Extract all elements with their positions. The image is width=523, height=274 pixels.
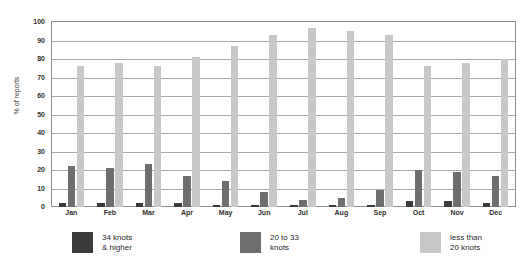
bar xyxy=(329,205,337,207)
y-axis-tick-label: 10 xyxy=(19,185,45,192)
x-axis-tick-label: Jun xyxy=(244,209,284,216)
bar xyxy=(59,203,67,207)
bar xyxy=(415,170,423,207)
bar xyxy=(68,166,76,207)
bar xyxy=(406,201,414,207)
bar xyxy=(453,172,461,207)
bars-layer xyxy=(52,22,515,207)
x-axis-tick-label: Jan xyxy=(51,209,91,216)
bar xyxy=(106,168,114,207)
bar-group xyxy=(213,22,239,207)
bar xyxy=(97,203,105,207)
legend-swatch xyxy=(72,232,93,253)
bar-group xyxy=(483,22,509,207)
x-axis-tick-label: Mar xyxy=(128,209,168,216)
y-axis-tick-label: 90 xyxy=(19,37,45,44)
legend-item: 34 knots & higher xyxy=(72,232,132,253)
x-axis-tick-label: Aug xyxy=(321,209,361,216)
bar xyxy=(376,190,384,207)
bar-group xyxy=(329,22,355,207)
bar xyxy=(269,35,277,207)
bar-group xyxy=(290,22,316,207)
bar xyxy=(145,164,153,207)
bar-group xyxy=(444,22,470,207)
bar xyxy=(183,176,191,207)
x-axis-tick-label: Apr xyxy=(167,209,207,216)
legend-label: 34 knots & higher xyxy=(102,232,132,253)
bar xyxy=(154,66,162,207)
bar-group xyxy=(367,22,393,207)
y-axis-tick-label: 80 xyxy=(19,55,45,62)
bar xyxy=(424,66,432,207)
bar xyxy=(338,198,346,207)
bar xyxy=(492,176,500,207)
x-axis-tick-label: Dec xyxy=(476,209,516,216)
y-axis-tick-label: 100 xyxy=(19,18,45,25)
chart-legend: 34 knots & higher20 to 33 knotsless than… xyxy=(0,232,523,274)
bar xyxy=(308,28,316,207)
bar-group xyxy=(59,22,85,207)
bar-group xyxy=(406,22,432,207)
bar xyxy=(367,205,375,207)
x-axis-tick-label: Sep xyxy=(360,209,400,216)
bar xyxy=(136,203,144,207)
bar xyxy=(347,31,355,207)
x-axis-tick-label: Jul xyxy=(283,209,323,216)
y-axis-tick-label: 60 xyxy=(19,92,45,99)
bar xyxy=(290,205,298,207)
bar xyxy=(483,203,491,207)
bar xyxy=(231,46,239,207)
x-axis-tick-label: May xyxy=(206,209,246,216)
y-axis-tick-label: 70 xyxy=(19,74,45,81)
y-axis-tick-label: 30 xyxy=(19,148,45,155)
bar xyxy=(444,201,452,207)
bar xyxy=(192,57,200,207)
legend-swatch xyxy=(240,232,261,253)
legend-label: less than 20 knots xyxy=(450,232,482,253)
y-axis-tick-label: 0 xyxy=(19,203,45,210)
legend-item: 20 to 33 knots xyxy=(240,232,299,253)
bar-group xyxy=(97,22,123,207)
bar-group xyxy=(251,22,277,207)
bar xyxy=(174,203,182,207)
bar xyxy=(462,63,470,207)
bar xyxy=(222,181,230,207)
bar xyxy=(501,59,509,207)
bar-group xyxy=(136,22,162,207)
legend-item: less than 20 knots xyxy=(420,232,482,253)
x-axis-tick-label: Feb xyxy=(90,209,130,216)
bar xyxy=(260,192,268,207)
legend-label: 20 to 33 knots xyxy=(270,232,299,253)
bar xyxy=(77,66,85,207)
bar xyxy=(385,35,393,207)
y-axis-tick-label: 50 xyxy=(19,111,45,118)
bar xyxy=(251,205,259,207)
legend-swatch xyxy=(420,232,441,253)
bar-group xyxy=(174,22,200,207)
bar xyxy=(115,63,123,207)
y-axis-tick-label: 40 xyxy=(19,129,45,136)
bar xyxy=(299,200,307,207)
y-axis-tick-label: 20 xyxy=(19,166,45,173)
x-axis-tick-label: Oct xyxy=(399,209,439,216)
bar xyxy=(213,205,221,207)
x-axis-tick-label: Nov xyxy=(437,209,477,216)
